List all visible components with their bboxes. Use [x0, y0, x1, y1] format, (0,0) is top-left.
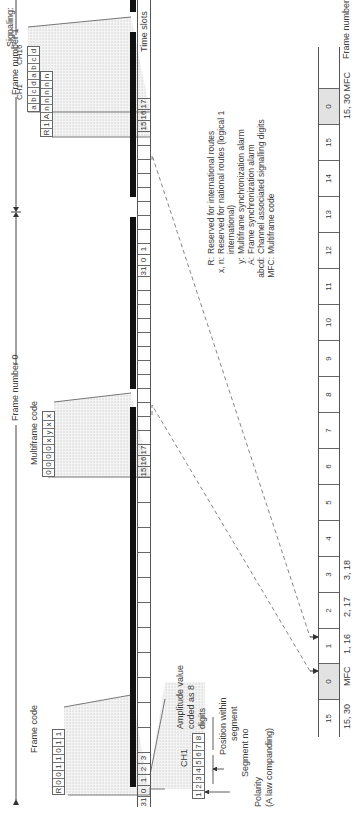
polarity-line1: Polarity: [253, 728, 264, 807]
bit: 1: [53, 754, 64, 762]
frame-cell: 2: [319, 592, 339, 628]
bit: 7: [193, 742, 204, 750]
position-line2: segment: [229, 697, 240, 755]
bit: 8: [193, 734, 204, 742]
slot-17-f1: 17: [138, 98, 150, 109]
slot-31-f0end: 31: [138, 265, 150, 276]
frame-code-bits: R 0 0 1 1 0 1 1: [52, 729, 65, 795]
amplitude-line2: coded as 8: [186, 665, 197, 729]
legend-row: R:Reserved for international routes: [206, 111, 216, 287]
time-slots-label: Time slots: [140, 11, 149, 52]
polarity-label: Polarity (A law companding): [253, 728, 275, 807]
bit: 0: [43, 468, 54, 476]
legend-key: [226, 254, 236, 287]
bit: d: [28, 47, 39, 55]
multiframe-structure-diagram: 31 0 1 2 3 15 16 17 31 0 1 15 16 17 Fram…: [0, 0, 358, 817]
bit: 4: [193, 766, 204, 774]
frame-cell: 15: [319, 124, 339, 160]
bit: 1: [41, 120, 52, 128]
frame1-bar-end: [130, 0, 136, 12]
frame-number-note: 1, 16: [343, 634, 352, 654]
ch1-label: CH1: [180, 749, 189, 767]
bit: b: [28, 63, 39, 71]
slot-1: 1: [138, 774, 150, 785]
frame1-bar-long: [130, 32, 136, 197]
frame-code-label: Frame code: [30, 705, 39, 753]
slot-15: 15: [138, 466, 150, 477]
legend-key: R:: [206, 254, 216, 287]
bit: c: [28, 55, 39, 63]
bit: n: [41, 88, 52, 96]
legend-key: abcd:: [256, 254, 266, 287]
bit: 1: [53, 730, 64, 738]
legend-key: MFC:: [266, 254, 276, 287]
multiframe-code-bits: 0 0 0 0 x y x x: [42, 411, 55, 477]
slot-0: 0: [138, 785, 150, 796]
bit: a: [28, 71, 39, 79]
nfas-bits: R 1 A n n n n n: [40, 71, 53, 137]
signaling-label: Signaling:: [6, 7, 15, 47]
bit: 6: [193, 750, 204, 758]
frame0-bar-right: [130, 217, 136, 389]
bit: n: [41, 104, 52, 112]
bit: R: [41, 128, 52, 136]
bit: 0: [53, 778, 64, 786]
legend-text: Reserved for international routes: [206, 131, 216, 254]
bit: n: [41, 96, 52, 104]
frame-cell: 9: [319, 340, 339, 376]
frame-number-note: 15, 30 MFC: [343, 72, 352, 119]
legend-row: MFC:Multiframe code: [266, 111, 276, 287]
bit: x: [43, 420, 54, 428]
slot-31: 31: [138, 796, 150, 807]
slot-16-f1: 16: [138, 109, 150, 120]
amplitude-label: Amplitude value coded as 8 digits: [175, 665, 208, 729]
bit: y: [43, 428, 54, 436]
slot-2: 2: [138, 763, 150, 774]
bit: x: [43, 436, 54, 444]
signaling-bits: a b c d a b c d: [27, 46, 40, 112]
frame-cell: 15: [319, 699, 339, 737]
bit: 0: [53, 746, 64, 754]
slot-1-f1: 1: [138, 243, 150, 254]
legend-text: international): [226, 205, 236, 254]
bit: 1: [193, 790, 204, 798]
legend-key: y:: [236, 254, 246, 287]
legend-row: A:Frame synchronization alarm: [246, 111, 256, 287]
bit: A: [41, 112, 52, 120]
bit: 1: [53, 738, 64, 746]
frame-cell: 13: [319, 196, 339, 232]
position-line1: Position within: [218, 697, 229, 755]
frame-cell: 5: [319, 484, 339, 520]
legend-row: y:Multiframe synchronization alarm: [236, 111, 246, 287]
bit: 2: [193, 782, 204, 790]
frame-cell: 12: [319, 232, 339, 268]
bit: 0: [53, 770, 64, 778]
polarity-line2: (A law companding): [264, 728, 275, 807]
bit: 5: [193, 758, 204, 766]
bit: 0: [43, 460, 54, 468]
legend-text: Channel associated signalling digits: [256, 119, 266, 254]
frame-cell: 4: [319, 520, 339, 556]
bit: 1: [53, 762, 64, 770]
legend-row: abcd:Channel associated signalling digit…: [256, 111, 266, 287]
slot-16: 16: [138, 455, 150, 466]
slot-17: 17: [138, 444, 150, 455]
legend-text: Multiframe synchronization alarm: [236, 129, 246, 254]
frame-cell: 3: [319, 556, 339, 592]
frame-cell: 6: [319, 448, 339, 484]
frame0-bar-left: [130, 407, 136, 787]
amplitude-line3: digits: [197, 665, 208, 729]
ch1-bits: 1 2 3 4 5 6 7 8: [192, 733, 205, 799]
slot-3: 3: [138, 752, 150, 763]
frame-number-note: 15, 30: [343, 704, 352, 729]
legend-text: Frame synchronization alarm: [246, 144, 256, 254]
slot-15-f1: 15: [138, 120, 150, 131]
slot-0-f1: 0: [138, 254, 150, 265]
bit: 3: [193, 774, 204, 782]
multiframe-code-label: Multiframe code: [30, 401, 39, 465]
frame-numbers-label: Frame numbers: [342, 0, 351, 59]
frame-cell: 1: [319, 628, 339, 663]
legend-key: A:: [246, 254, 256, 287]
bit: 0: [43, 452, 54, 460]
bit: R: [53, 786, 64, 794]
